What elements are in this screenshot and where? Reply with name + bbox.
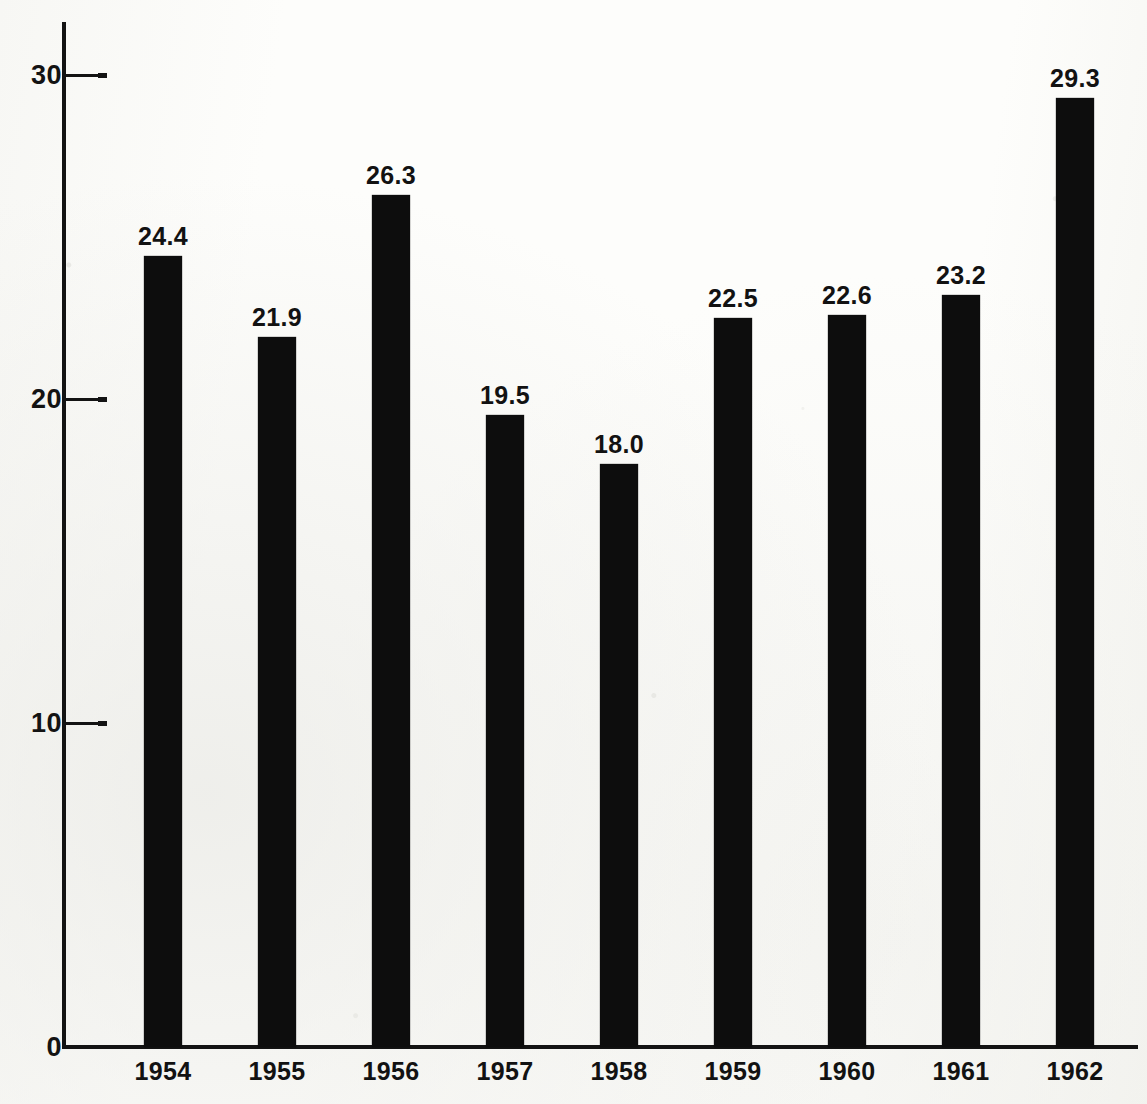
bar-value-label-1958: 18.0 [569,430,669,459]
bar-1955 [258,337,296,1047]
bar-1960 [828,315,866,1047]
y-axis-label-30: 30 [31,60,62,91]
bar-value-label-1962: 29.3 [1025,64,1125,93]
bar-1956 [372,195,410,1047]
y-axis-label-10: 10 [31,708,62,739]
y-axis-label-0: 0 [46,1032,62,1063]
bar-value-label-1955: 21.9 [227,303,327,332]
bar-value-label-1961: 23.2 [911,261,1011,290]
bar-1961 [942,295,980,1047]
x-axis-label-1955: 1955 [217,1057,337,1086]
bar-chart-plot-area: 3020100 24.421.926.319.518.022.522.623.2… [0,0,1147,1104]
bar-1958 [600,464,638,1047]
y-axis-tick-10 [66,722,105,725]
scanned-chart-page: 3020100 24.421.926.319.518.022.522.623.2… [0,0,1147,1104]
bar-1962 [1056,98,1094,1047]
x-axis-label-1956: 1956 [331,1057,451,1086]
x-axis-label-1960: 1960 [787,1057,907,1086]
bar-value-label-1960: 22.6 [797,281,897,310]
x-axis-label-1962: 1962 [1015,1057,1135,1086]
x-axis-label-1958: 1958 [559,1057,679,1086]
y-axis-tick-30 [66,74,105,77]
bar-value-label-1957: 19.5 [455,381,555,410]
y-axis-tick-20 [66,398,105,401]
bar-value-label-1954: 24.4 [113,222,213,251]
bar-1954 [144,256,182,1047]
bar-1957 [486,415,524,1047]
y-axis-label-20: 20 [31,384,62,415]
x-axis-label-1961: 1961 [901,1057,1021,1086]
bar-1959 [714,318,752,1047]
x-axis-label-1954: 1954 [103,1057,223,1086]
y-axis-line [62,22,66,1049]
bar-value-label-1959: 22.5 [683,284,783,313]
x-axis-label-1957: 1957 [445,1057,565,1086]
bar-value-label-1956: 26.3 [341,161,441,190]
x-axis-label-1959: 1959 [673,1057,793,1086]
